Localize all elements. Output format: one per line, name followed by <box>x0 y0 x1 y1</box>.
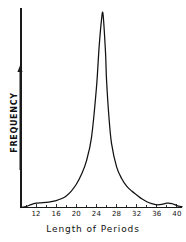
x-axis-tick-label: 32 <box>132 210 141 218</box>
x-axis-tick-label: 36 <box>152 210 162 218</box>
x-axis-tick-label: 16 <box>52 210 62 218</box>
x-axis-label: Length of Periods <box>0 224 186 234</box>
x-axis-tick-label: 20 <box>72 210 81 218</box>
x-axis-tick-label: 12 <box>31 210 40 218</box>
y-axis-label: FREQUENCY <box>10 83 19 163</box>
x-axis-tick-label: 28 <box>112 210 121 218</box>
chart-plot-area: 1216202428323640 <box>0 0 186 242</box>
axes-group <box>21 8 182 208</box>
frequency-distribution-chart: 1216202428323640 FREQUENCY Length of Per… <box>0 0 186 242</box>
x-axis-tick-label: 24 <box>92 210 102 218</box>
x-axis-tick-label: 40 <box>172 210 181 218</box>
frequency-curve <box>21 12 182 207</box>
x-axis-tick-labels: 1216202428323640 <box>31 210 181 218</box>
